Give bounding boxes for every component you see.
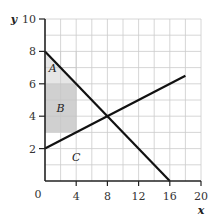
- y-axis-title: y: [10, 13, 19, 26]
- region-label-a: A: [48, 62, 57, 75]
- region-label-b: B: [56, 102, 65, 115]
- origin-label: 0: [35, 188, 42, 201]
- x-tick-label: 4: [73, 190, 80, 203]
- x-axis-title: x: [197, 204, 205, 217]
- y-tick-label: 2: [29, 143, 36, 156]
- y-tick-label: 10: [22, 13, 36, 26]
- chart: 246810481216200yxABC: [0, 0, 219, 223]
- x-tick-label: 20: [194, 190, 208, 203]
- y-tick-label: 6: [29, 78, 36, 91]
- y-tick-label: 8: [29, 45, 36, 58]
- region-label-c: C: [72, 151, 81, 164]
- x-tick-label: 8: [104, 190, 111, 203]
- y-tick-label: 4: [29, 110, 36, 123]
- x-tick-label: 16: [163, 190, 177, 203]
- x-tick-label: 12: [132, 190, 146, 203]
